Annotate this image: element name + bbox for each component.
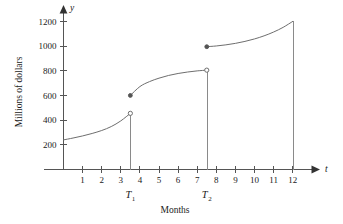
- closed-endpoint-marker: [205, 45, 209, 49]
- y-tick-label: 1200: [39, 17, 58, 27]
- breakpoint-label-T2: T2: [202, 189, 212, 203]
- y-tick-label: 600: [43, 91, 57, 101]
- x-tick-label: 3: [119, 175, 124, 185]
- x-tick-label: 5: [157, 175, 162, 185]
- chart-container: y t 20040060080010001200 123456789101112…: [0, 0, 343, 224]
- y-tick-group: 20040060080010001200: [39, 17, 68, 150]
- x-axis-variable-label: t: [325, 164, 328, 174]
- y-tick-label: 800: [43, 66, 57, 76]
- y-axis-arrow-icon: [60, 5, 68, 14]
- x-tick-label: 1: [80, 175, 85, 185]
- breakpoint-label-T1: T1: [125, 189, 135, 203]
- curve-segment-1: [64, 113, 131, 140]
- x-tick-label: 6: [176, 175, 181, 185]
- x-tick-label: 8: [214, 175, 219, 185]
- x-tick-label: 12: [288, 175, 297, 185]
- x-axis-group: t: [44, 164, 328, 174]
- x-tick-label: 4: [138, 175, 143, 185]
- x-axis-title: Months: [160, 205, 189, 215]
- y-axis-title: Millions of dollars: [14, 56, 24, 127]
- x-tick-label: 11: [269, 175, 278, 185]
- drop-line-group: [131, 21, 294, 169]
- y-tick-label: 200: [43, 140, 57, 150]
- x-tick-label: 2: [99, 175, 104, 185]
- x-tick-group: 123456789101112: [80, 166, 297, 185]
- y-tick-label: 1000: [39, 41, 58, 51]
- curve-segment-3: [207, 21, 293, 46]
- x-axis-arrow-icon: [312, 166, 321, 174]
- curve-segment-2: [130, 70, 206, 95]
- closed-endpoint-marker: [128, 94, 132, 98]
- curve-group: [64, 21, 293, 139]
- open-endpoint-marker: [205, 68, 209, 72]
- open-endpoint-marker: [128, 111, 132, 115]
- x-tick-label: 9: [233, 175, 238, 185]
- marker-group: [128, 45, 209, 116]
- x-tick-label: 10: [250, 175, 260, 185]
- y-axis-variable-label: y: [69, 3, 75, 13]
- annotation-group: T1T2: [125, 189, 212, 203]
- y-tick-label: 400: [43, 115, 57, 125]
- x-tick-label: 7: [195, 175, 200, 185]
- chart-plot: y t 20040060080010001200 123456789101112…: [0, 0, 343, 224]
